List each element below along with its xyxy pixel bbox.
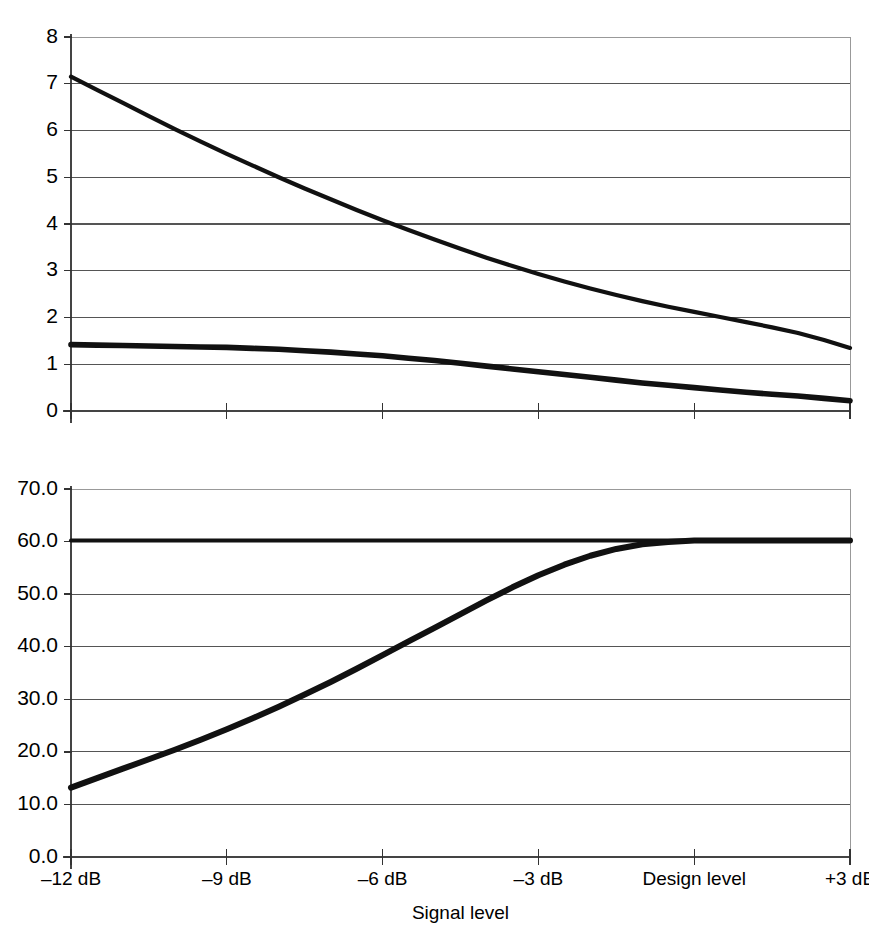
x-tick-label: Design level: [642, 868, 746, 889]
y-tick-label: 5: [46, 164, 58, 187]
y-tick-label: 60.0: [17, 528, 58, 551]
y-tick-label: 8: [46, 24, 58, 47]
y-tick-label: 3: [46, 257, 58, 280]
y-tick-label: 40.0: [17, 633, 58, 656]
y-tick-label: 1: [46, 351, 58, 374]
x-tick-label: –3 dB: [514, 868, 564, 889]
y-tick-label: 4: [46, 211, 58, 234]
y-tick-label: 6: [46, 117, 58, 140]
chart-top-panel: 012345678: [0, 0, 869, 450]
y-tick-label: 7: [46, 70, 58, 93]
y-tick-label: 30.0: [17, 686, 58, 709]
series-upper-curve: [71, 77, 850, 348]
chart-bottom-panel: 0.010.020.030.040.050.060.070.0–12 dB–9 …: [0, 450, 869, 939]
y-tick-label: 0.0: [29, 844, 58, 867]
y-tick-label: 70.0: [17, 476, 58, 499]
y-tick-label: 10.0: [17, 791, 58, 814]
series-lower-curve: [71, 345, 850, 401]
x-tick-label: –6 dB: [358, 868, 408, 889]
series-rising-s-curve: [71, 541, 850, 788]
y-tick-label: 20.0: [17, 738, 58, 761]
x-tick-label: +3 dB: [825, 868, 869, 889]
bottom-chart-svg: 0.010.020.030.040.050.060.070.0–12 dB–9 …: [0, 450, 869, 939]
y-tick-label: 2: [46, 304, 58, 327]
x-axis-title: Signal level: [412, 902, 509, 923]
y-tick-label: 0: [46, 398, 58, 421]
x-tick-label: –9 dB: [202, 868, 252, 889]
figure-container: 012345678 0.010.020.030.040.050.060.070.…: [0, 0, 869, 939]
x-tick-label: –12 dB: [41, 868, 101, 889]
top-chart-svg: 012345678: [0, 0, 869, 450]
y-tick-label: 50.0: [17, 581, 58, 604]
